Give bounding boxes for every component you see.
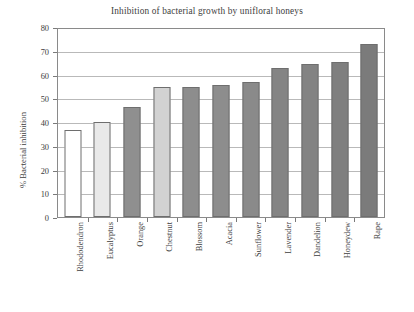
bar[interactable] bbox=[124, 107, 141, 217]
y-tick-label: 0 bbox=[3, 214, 49, 223]
y-tick-mark bbox=[53, 218, 57, 219]
x-tick-label: Dandelion bbox=[313, 222, 322, 308]
bar-slot bbox=[295, 29, 325, 217]
bar-slot bbox=[354, 29, 384, 217]
bar-slot bbox=[206, 29, 236, 217]
x-tick-mark bbox=[206, 218, 207, 222]
x-axis-category-labels: RhododendronEucalyptusOrangeChestnutBlos… bbox=[58, 224, 384, 310]
bar-slot bbox=[147, 29, 177, 217]
x-tick-label: Honeydew bbox=[343, 222, 352, 308]
x-tick-label: Sunflower bbox=[254, 222, 263, 308]
bar[interactable] bbox=[242, 82, 259, 217]
y-tick-label: 60 bbox=[3, 71, 49, 80]
y-axis-ticks: 80706050403020100 bbox=[0, 28, 57, 218]
x-tick-mark bbox=[177, 218, 178, 222]
x-tick-label: Blossom bbox=[195, 222, 204, 308]
x-tick-label: Rhododendron bbox=[76, 222, 85, 308]
bar[interactable] bbox=[153, 87, 170, 217]
x-tick-mark bbox=[147, 218, 148, 222]
x-tick-label: Acacia bbox=[225, 222, 234, 308]
y-tick-label: 30 bbox=[3, 142, 49, 151]
y-tick-label: 20 bbox=[3, 166, 49, 175]
bar-slot bbox=[236, 29, 266, 217]
bar-slot bbox=[265, 29, 295, 217]
bar[interactable] bbox=[64, 130, 81, 217]
bar[interactable] bbox=[331, 62, 348, 217]
bar-slot bbox=[117, 29, 147, 217]
x-tick-label: Lavender bbox=[284, 222, 293, 308]
bar[interactable] bbox=[361, 44, 378, 217]
x-tick-label: Chestnut bbox=[165, 222, 174, 308]
bar-chart-figure: Inhibition of bacterial growth by uniflo… bbox=[0, 0, 414, 312]
bar-slot bbox=[177, 29, 207, 217]
x-tick-mark bbox=[88, 218, 89, 222]
x-tick-mark bbox=[265, 218, 266, 222]
bar[interactable] bbox=[183, 87, 200, 217]
bar-slot bbox=[88, 29, 118, 217]
y-tick-label: 10 bbox=[3, 190, 49, 199]
x-tick-label: Orange bbox=[136, 222, 145, 308]
x-tick-label: Rape bbox=[373, 222, 382, 308]
y-tick-label: 80 bbox=[3, 24, 49, 33]
bar-slot bbox=[325, 29, 355, 217]
bar[interactable] bbox=[94, 122, 111, 217]
bars-container bbox=[58, 29, 384, 217]
x-tick-mark bbox=[325, 218, 326, 222]
x-tick-mark bbox=[117, 218, 118, 222]
y-tick-label: 50 bbox=[3, 95, 49, 104]
bar-slot bbox=[58, 29, 88, 217]
x-tick-mark bbox=[354, 218, 355, 222]
chart-title: Inhibition of bacterial growth by uniflo… bbox=[0, 6, 414, 16]
x-tick-label: Eucalyptus bbox=[106, 222, 115, 308]
bar[interactable] bbox=[212, 85, 229, 217]
bar[interactable] bbox=[272, 68, 289, 217]
y-tick-label: 70 bbox=[3, 47, 49, 56]
y-tick-label: 40 bbox=[3, 119, 49, 128]
bar[interactable] bbox=[301, 64, 318, 217]
x-tick-mark bbox=[295, 218, 296, 222]
x-tick-mark bbox=[236, 218, 237, 222]
